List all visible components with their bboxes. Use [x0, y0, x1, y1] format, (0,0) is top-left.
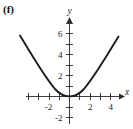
y-tick-label-neg2: -2: [55, 113, 63, 123]
x-axis-label: x: [124, 87, 130, 97]
parabola-plot: -2 2 4 -2 2 4 6 x y: [0, 0, 133, 129]
x-tick-label-2: 2: [88, 102, 93, 112]
y-axis-label: y: [66, 6, 72, 16]
y-tick-label-6: 6: [58, 29, 63, 39]
y-tick-label-2: 2: [58, 71, 63, 81]
x-tick-label-4: 4: [109, 102, 114, 112]
x-tick-label-neg2: -2: [45, 102, 53, 112]
y-tick-label-4: 4: [58, 50, 63, 60]
figure-panel: (f): [0, 0, 133, 129]
y-axis-arrow: [67, 17, 73, 23]
